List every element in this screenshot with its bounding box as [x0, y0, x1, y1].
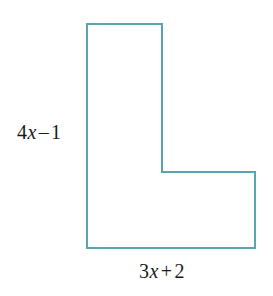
width-label-operator: + [159, 260, 175, 282]
height-label-operator: – [37, 121, 51, 143]
width-label-constant: 2 [174, 260, 184, 282]
height-label-coefficient: 4 [17, 121, 27, 143]
height-label-constant: 1 [51, 121, 61, 143]
width-label-coefficient: 3 [139, 260, 149, 282]
geometry-figure-canvas: 4x–1 3x+2 [0, 0, 273, 296]
width-dimension-label: 3x+2 [139, 261, 185, 281]
width-label-variable: x [149, 260, 158, 282]
l-shape-outline [87, 24, 255, 248]
height-label-variable: x [27, 121, 36, 143]
l-shape-polygon [0, 0, 273, 296]
height-dimension-label: 4x–1 [17, 122, 62, 142]
